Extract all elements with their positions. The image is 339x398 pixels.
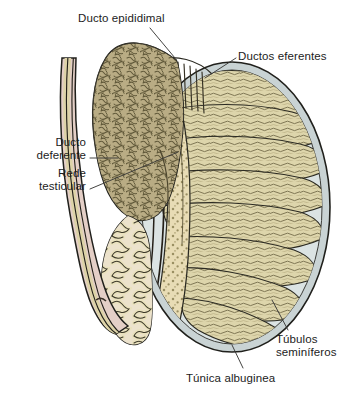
label-tubulos-seminiferos: Túbulos seminíferos [276, 333, 337, 359]
label-tunica-albuginea: Túnica albuginea [186, 372, 275, 385]
label-ducto-epididimal: Ducto epididimal [78, 12, 165, 25]
label-ducto-deferente: Ducto deferente [0, 136, 86, 162]
anatomy-figure: Ducto epididimal Ductos eferentes Ducto … [0, 0, 339, 398]
label-ductos-eferentes: Ductos eferentes [238, 50, 327, 63]
label-rede-testicular: Rede testicular [0, 167, 86, 193]
